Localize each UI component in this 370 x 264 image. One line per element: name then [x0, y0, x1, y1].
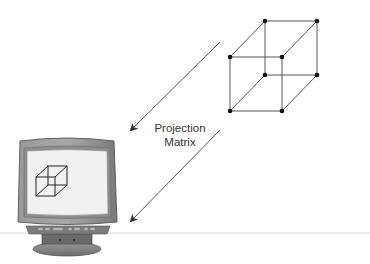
projection-diagram: Projection Matrix — [0, 0, 370, 264]
crt-monitor-icon — [18, 138, 117, 256]
projection-arrow-upper-icon — [131, 42, 220, 130]
label-line-1: Projection — [140, 121, 220, 135]
projection-matrix-label: Projection Matrix — [140, 121, 220, 149]
wireframe-cube-icon — [230, 21, 317, 111]
label-line-2: Matrix — [140, 135, 220, 149]
